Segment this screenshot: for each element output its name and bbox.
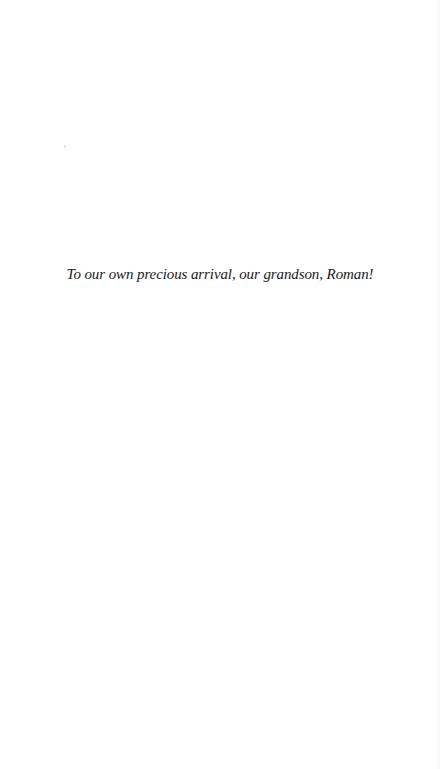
page-edge-shadow	[436, 0, 440, 769]
dedication-text: To our own precious arrival, our grandso…	[0, 266, 440, 283]
paper-speck	[64, 145, 66, 148]
dedication-page: To our own precious arrival, our grandso…	[0, 0, 440, 769]
